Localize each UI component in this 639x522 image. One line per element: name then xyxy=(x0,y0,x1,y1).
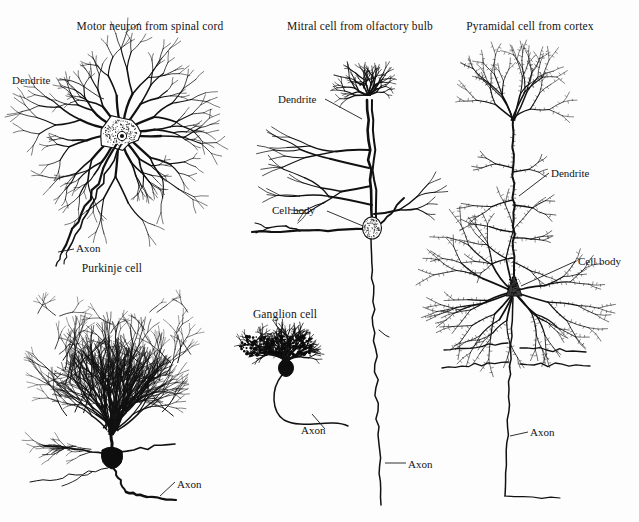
pyramidal-cell-drawing xyxy=(416,40,615,498)
neuron-figure: Motor neuron from spinal cord Mitral cel… xyxy=(0,0,639,522)
ganglion-cell-drawing xyxy=(234,319,348,426)
neuron-drawings xyxy=(0,0,639,522)
motor-neuron-drawing xyxy=(5,18,228,266)
label-leader-lines xyxy=(58,80,576,496)
purkinje-cell-drawing xyxy=(22,290,204,500)
